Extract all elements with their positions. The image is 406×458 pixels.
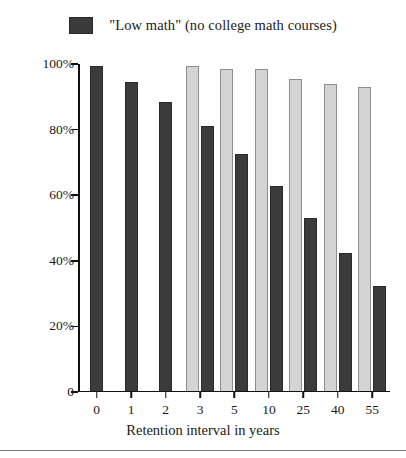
y-axis-tick-label: 80% — [49, 123, 74, 137]
x-axis-tick-label: 55 — [355, 402, 389, 418]
bar — [339, 253, 352, 391]
legend-swatch-low-math — [69, 17, 93, 34]
bar — [255, 69, 268, 390]
x-axis-ticks — [80, 392, 390, 400]
bar — [235, 154, 248, 390]
bar — [220, 69, 233, 390]
bar — [373, 286, 386, 391]
bar-group — [148, 65, 182, 391]
bar — [186, 66, 199, 391]
x-axis-tick — [286, 392, 320, 400]
bar-group — [80, 65, 114, 391]
legend-label-low-math: "Low math" (no college math courses) — [109, 17, 337, 34]
bar-group — [217, 65, 251, 391]
x-axis-tick-labels: 0123510254055 — [80, 402, 390, 418]
bar-group — [286, 65, 320, 391]
bar — [125, 82, 138, 390]
x-axis-tick — [217, 392, 251, 400]
x-axis-tick-label: 25 — [286, 402, 320, 418]
plot-area: 020%40%60%80%100% 0123510254055 — [78, 64, 390, 392]
bar-group — [183, 65, 217, 391]
x-axis-tick — [252, 392, 286, 400]
x-axis-tick — [321, 392, 355, 400]
x-axis-tick — [183, 392, 217, 400]
x-axis-title: Retention interval in years — [0, 422, 406, 439]
x-axis-tick-label: 1 — [114, 402, 148, 418]
x-axis-tick-label: 5 — [217, 402, 251, 418]
x-axis-tick-label: 10 — [252, 402, 286, 418]
x-axis-tick-label: 40 — [321, 402, 355, 418]
bar — [324, 84, 337, 391]
bar — [270, 186, 283, 391]
x-axis-tick-label: 3 — [183, 402, 217, 418]
bar — [358, 87, 371, 390]
bar — [159, 102, 172, 391]
page-divider-rule — [0, 450, 406, 451]
bar — [289, 79, 302, 391]
bar — [304, 218, 317, 390]
bar — [90, 66, 103, 391]
x-axis-tick-label: 0 — [80, 402, 114, 418]
bar — [201, 126, 214, 390]
x-axis-tick — [355, 392, 389, 400]
y-axis-tick-label: 60% — [49, 188, 74, 202]
x-axis-tick — [148, 392, 182, 400]
bar-group — [355, 65, 389, 391]
y-axis-tick-label: 100% — [43, 57, 75, 71]
x-axis-tick — [114, 392, 148, 400]
bar-group — [114, 65, 148, 391]
y-axis-title: Percentage remembered — [6, 0, 24, 64]
x-axis-tick — [80, 392, 114, 400]
y-axis-tick-label: 40% — [49, 254, 74, 268]
bar-groups — [80, 65, 390, 391]
x-axis-tick-label: 2 — [148, 402, 182, 418]
y-axis-tick-label: 20% — [49, 320, 74, 334]
y-axis-tick-label: 0 — [67, 385, 74, 399]
chart-legend: "Low math" (no college math courses) — [0, 8, 406, 42]
y-axis-title-text: Percentage remembered — [6, 0, 24, 64]
bar-group — [321, 65, 355, 391]
bar-group — [252, 65, 286, 391]
